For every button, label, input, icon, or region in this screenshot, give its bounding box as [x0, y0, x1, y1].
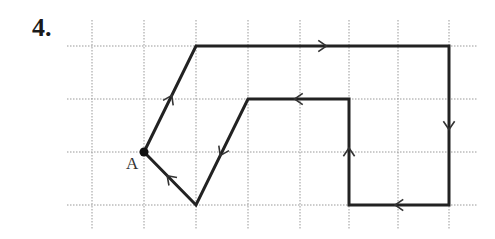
- dotted-grid: [67, 20, 477, 230]
- path-polygon: [144, 46, 449, 205]
- grid-path-diagram: [0, 0, 495, 239]
- closed-path: [144, 46, 449, 205]
- point-a-marker: [140, 148, 149, 157]
- point-a-label: A: [126, 154, 138, 174]
